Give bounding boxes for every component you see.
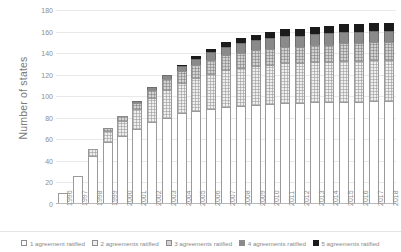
stacked-bar[interactable] [147, 87, 157, 204]
bar-segment[interactable] [339, 24, 349, 32]
stacked-bar[interactable] [236, 38, 246, 204]
bar-segment[interactable] [265, 65, 275, 104]
bar-segment[interactable] [384, 23, 394, 31]
bar-segment[interactable] [310, 62, 320, 102]
bar-segment[interactable] [339, 61, 349, 102]
bar-segment[interactable] [221, 47, 231, 56]
bar-segment[interactable] [162, 79, 172, 90]
stacked-bar[interactable] [162, 75, 172, 204]
bar-segment[interactable] [339, 43, 349, 60]
bar-segment[interactable] [191, 78, 201, 111]
legend-item[interactable]: 3 agreements ratified [166, 240, 233, 247]
bar-segment[interactable] [236, 43, 246, 53]
bar-segment[interactable] [295, 36, 305, 47]
bar-segment[interactable] [251, 50, 261, 66]
bar-segment[interactable] [324, 62, 334, 102]
stacked-bar[interactable] [132, 101, 142, 204]
bar-segment[interactable] [384, 101, 394, 204]
stacked-bar[interactable] [265, 32, 275, 204]
bar-segment[interactable] [324, 33, 334, 45]
stacked-bar[interactable] [206, 49, 216, 204]
bar-segment[interactable] [177, 83, 187, 113]
x-axis-tick-label: 2006 [214, 190, 221, 206]
y-axis-tick-label: 80 [45, 114, 53, 121]
bar-slot [307, 10, 322, 204]
bar-segment[interactable] [354, 24, 364, 32]
legend-item[interactable]: 2 agreements ratified [92, 240, 159, 247]
bar-segment[interactable] [354, 61, 364, 102]
bar-segment[interactable] [310, 45, 320, 62]
bar-segment[interactable] [369, 101, 379, 204]
bar-segment[interactable] [280, 103, 290, 204]
bar-segment[interactable] [369, 31, 379, 43]
stacked-bar[interactable] [221, 42, 231, 204]
legend-item[interactable]: 4 agreements ratified [239, 240, 306, 247]
bar-segment[interactable] [132, 109, 142, 128]
bar-slot [130, 10, 145, 204]
bar-segment[interactable] [354, 43, 364, 60]
bar-slot [263, 10, 278, 204]
stacked-bar[interactable] [324, 26, 334, 204]
y-axis-tick-label: 160 [41, 28, 53, 35]
bar-segment[interactable] [354, 102, 364, 204]
stacked-bar[interactable] [251, 35, 261, 204]
bar-segment[interactable] [295, 103, 305, 204]
bar-segment[interactable] [339, 102, 349, 204]
bar-segment[interactable] [339, 32, 349, 44]
bar-segment[interactable] [206, 60, 216, 74]
bar-segment[interactable] [369, 60, 379, 101]
stacked-bar[interactable] [354, 24, 364, 204]
legend-item[interactable]: 5 agreements ratified [313, 240, 380, 247]
bar-segment[interactable] [324, 45, 334, 62]
bar-segment[interactable] [191, 65, 201, 78]
bar-segment[interactable] [369, 42, 379, 59]
stacked-bar[interactable] [280, 29, 290, 204]
bar-segment[interactable] [147, 90, 157, 99]
bar-segment[interactable] [280, 63, 290, 103]
bar-segment[interactable] [280, 47, 290, 63]
bar-segment[interactable] [310, 102, 320, 204]
stacked-bar[interactable] [191, 56, 201, 204]
bar-segment[interactable] [295, 47, 305, 63]
legend-label: 1 agreement ratified [30, 240, 85, 247]
bar-segment[interactable] [295, 63, 305, 103]
stacked-bar[interactable] [310, 27, 320, 204]
bar-segment[interactable] [265, 49, 275, 65]
bar-segment[interactable] [369, 23, 379, 31]
bar-segment[interactable] [265, 104, 275, 204]
bar-segment[interactable] [206, 74, 216, 110]
bar-segment[interactable] [103, 131, 113, 142]
bar-segment[interactable] [206, 52, 216, 60]
stacked-bar[interactable] [177, 65, 187, 204]
bar-slot [174, 10, 189, 204]
bar-segment[interactable] [251, 66, 261, 105]
bar-segment[interactable] [251, 40, 261, 50]
legend-item[interactable]: 1 agreement ratified [21, 240, 85, 247]
bar-segment[interactable] [236, 53, 246, 68]
bar-slot [337, 10, 352, 204]
bar-slot [145, 10, 160, 204]
bar-segment[interactable] [384, 42, 394, 59]
x-axis-tick-label: 1996 [66, 190, 73, 206]
bar-segment[interactable] [354, 32, 364, 44]
stacked-bar[interactable] [295, 29, 305, 204]
stacked-bar[interactable] [384, 23, 394, 204]
bar-segment[interactable] [147, 98, 157, 122]
bar-segment[interactable] [221, 55, 231, 70]
bar-segment[interactable] [384, 60, 394, 101]
stacked-bar[interactable] [339, 24, 349, 204]
bar-segment[interactable] [117, 121, 127, 136]
x-axis-tick-label: 1998 [96, 190, 103, 206]
bar-segment[interactable] [384, 31, 394, 43]
bar-segment[interactable] [324, 102, 334, 204]
bar-segment[interactable] [265, 38, 275, 49]
x-axis-tick-label: 2001 [140, 190, 147, 206]
stacked-bar[interactable] [369, 23, 379, 204]
bar-segment[interactable] [236, 68, 246, 106]
bar-segment[interactable] [310, 34, 320, 45]
bar-segment[interactable] [221, 70, 231, 107]
bar-segment[interactable] [177, 71, 187, 83]
bar-segment[interactable] [162, 90, 172, 118]
bar-segment[interactable] [280, 36, 290, 47]
x-axis-tick-label: 2017 [377, 190, 384, 206]
